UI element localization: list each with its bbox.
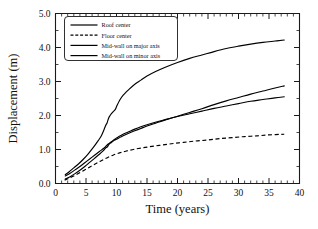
figure-container: 0510152025303540 0.01.02.03.04.05.0 Time…	[0, 0, 318, 229]
data-series-layer	[65, 40, 285, 180]
y-axis-title: Displacement (m)	[6, 54, 20, 144]
legend-label: Floor center	[102, 32, 132, 39]
displacement-time-chart: 0510152025303540 0.01.02.03.04.05.0 Time…	[0, 0, 318, 229]
x-tick-label: 15	[142, 188, 152, 198]
x-tick-label: 40	[295, 188, 305, 198]
x-axis-title: Time (years)	[146, 202, 210, 216]
y-tick-label: 3.0	[39, 77, 51, 87]
chart-legend: Roof centerFloor centerMid-wall on major…	[65, 17, 178, 61]
x-tick-label: 10	[112, 188, 122, 198]
y-tick-label: 0.0	[39, 179, 51, 189]
y-tick-label: 1.0	[39, 145, 51, 155]
x-axis-tick-labels: 0510152025303540	[53, 188, 304, 198]
y-axis-tick-labels: 0.01.02.03.04.05.0	[39, 9, 51, 189]
x-tick-label: 35	[264, 188, 274, 198]
y-tick-label: 5.0	[39, 9, 51, 19]
x-tick-label: 30	[234, 188, 244, 198]
x-tick-label: 0	[53, 188, 58, 198]
x-tick-label: 20	[173, 188, 183, 198]
x-tick-label: 5	[84, 188, 89, 198]
legend-label: Roof center	[102, 21, 131, 28]
y-tick-label: 2.0	[39, 111, 51, 121]
legend-label: Mid-wall on major axis	[102, 42, 161, 49]
x-tick-label: 25	[203, 188, 213, 198]
y-axis-title-group: Displacement (m)	[6, 54, 20, 144]
legend-label: Mid-wall on minor axis	[102, 52, 161, 59]
y-tick-label: 4.0	[39, 43, 51, 53]
series-line	[65, 86, 284, 179]
